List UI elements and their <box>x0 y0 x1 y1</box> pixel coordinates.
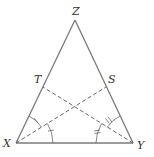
label-z: Z <box>71 5 80 18</box>
tick-x-upper <box>34 118 38 123</box>
tick-y-upper-1 <box>108 117 112 122</box>
label-y: Y <box>137 139 146 152</box>
angle-marks-x <box>29 116 54 143</box>
arc-y-upper <box>108 116 121 127</box>
tick-x-lower <box>48 130 54 131</box>
tick-y-lower-1 <box>94 130 100 131</box>
triangle-diagram: Z T S X Y <box>0 0 154 157</box>
angle-bisectors <box>16 87 133 143</box>
arc-x-upper <box>29 116 42 127</box>
label-x: X <box>2 137 12 150</box>
tick-y-upper-2 <box>106 119 110 124</box>
arc-x-lower <box>47 124 53 144</box>
label-s: S <box>108 73 116 86</box>
tick-y-lower-2 <box>95 133 101 134</box>
angle-marks-y <box>94 116 120 143</box>
label-t: T <box>34 73 43 86</box>
